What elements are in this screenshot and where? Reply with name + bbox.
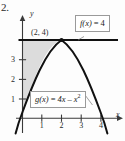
x-tick-label-3: 3: [76, 121, 86, 130]
x-tick-label-1: 1: [37, 121, 47, 130]
vertex-point-label: (2, 4): [31, 28, 48, 37]
callout-g-equals: =: [51, 94, 56, 104]
callout-g-exponent: 2: [78, 93, 81, 99]
callout-f-name: f(x): [80, 18, 92, 28]
callout-function-g: g(x)=4x–x2: [30, 91, 86, 108]
callout-g-minus: –: [68, 94, 72, 104]
y-axis-arrow: [20, 15, 26, 21]
figure-container: 2. y x (2, 4) 1 2 3 4 1 2 3 f(x)=4 g(x)=…: [0, 0, 125, 141]
problem-number: 2.: [1, 1, 9, 13]
x-tick-label-2: 2: [57, 121, 67, 130]
callout-f-equals: =: [94, 18, 99, 28]
y-tick-label-1: 1: [8, 95, 18, 104]
callout-g-name: g(x): [35, 94, 49, 104]
callout-f-value: 4: [101, 18, 105, 28]
callout-function-f: f(x)=4: [75, 15, 110, 32]
y-tick-label-3: 3: [8, 55, 18, 64]
x-axis-label: x: [116, 110, 120, 119]
callout-g-term-a: 4x: [57, 94, 65, 104]
y-tick-label-2: 2: [8, 75, 18, 84]
y-axis-label: y: [30, 9, 34, 18]
x-tick-label-4: 4: [96, 121, 106, 130]
vertex-point-marker: [59, 38, 63, 42]
